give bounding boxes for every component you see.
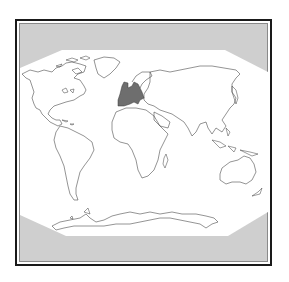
world-map	[0, 0, 289, 282]
map-ocean-area	[20, 50, 268, 236]
